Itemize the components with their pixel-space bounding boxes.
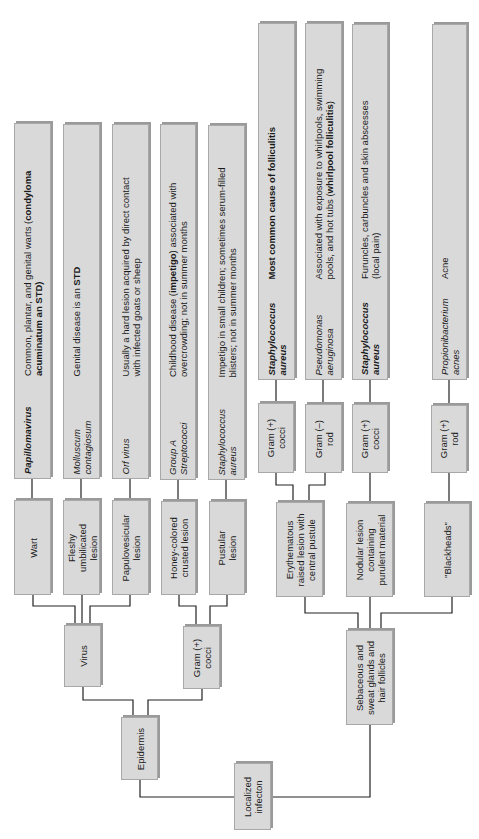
node-label: hair follicles — [375, 641, 386, 715]
node-label: cocci — [370, 419, 381, 457]
node-label: "Blackheads" — [442, 522, 453, 578]
node-label: Pustular — [216, 531, 227, 566]
organism-note-bold: impetigo — [167, 253, 178, 293]
honey-crusted-lesion-node: Honey-colored crusted lesion — [161, 501, 196, 595]
organism-note: (local pain) — [370, 101, 381, 279]
gram-positive-cocci-node: Gram (+) cocci — [183, 626, 220, 689]
node-label: Localized — [242, 776, 253, 816]
gram-negative-rod-node: Gram (–) rod — [305, 404, 342, 473]
organism-note: ) — [324, 101, 335, 104]
organism-name: aureus — [370, 279, 381, 375]
group-a-strep-node: Group A Streptococci Childhood disease (… — [160, 124, 196, 480]
organism-note-bold: Most common cause of folliculitis — [266, 126, 277, 279]
staph-aureus-folliculitis-node: Staphylococcus aureus Most common cause … — [258, 23, 295, 380]
node-label: Epidermis — [134, 727, 145, 769]
organism-name: Staphylococcus — [359, 279, 370, 375]
virus-node: Virus — [64, 625, 101, 687]
node-label: Gram (–) — [313, 420, 324, 458]
pseudomonas-node: Pseudomonas aeruginosa Associated with e… — [305, 23, 342, 380]
node-label: Sebaceous and — [353, 641, 364, 715]
organism-note: ) associated with — [167, 183, 178, 254]
node-label: purulent material — [375, 515, 386, 586]
organism-note: Usually a hard lesion acquired by direct… — [120, 177, 131, 376]
organism-name: acnes — [450, 279, 461, 375]
organism-note-bold: whirlpool folliculitis — [324, 104, 335, 193]
node-label: Erythematous — [283, 513, 294, 586]
organism-name: Staphylococcus — [266, 279, 277, 375]
node-label: lesion — [87, 523, 98, 571]
node-label: containing — [364, 515, 375, 586]
organism-name: Orf virus — [120, 376, 131, 474]
node-label: central pustule — [305, 513, 316, 586]
node-label: raised lesion with — [294, 513, 305, 586]
organism-note: Associated with exposure to whirlpools, … — [313, 68, 324, 279]
organism-note: Common, plantar, and genital warts ( — [22, 221, 33, 376]
sebaceous-glands-node: Sebaceous and sweat glands and hair foll… — [346, 630, 393, 725]
fleshy-lesion-node: Fleshy umbilicated lesion — [63, 500, 100, 595]
orf-virus-node: Orf virus Usually a hard lesion acquired… — [112, 124, 149, 479]
organism-note: Acne — [439, 257, 450, 279]
organism-note: Genital disease is an — [71, 285, 82, 376]
node-label: rod — [449, 420, 460, 458]
node-label: Fleshy — [65, 523, 76, 571]
organism-note-bold: condyloma — [22, 171, 33, 221]
organism-note: Childhood disease ( — [167, 293, 178, 377]
organism-name: aureus — [227, 377, 238, 475]
gram-positive-cocci-node: Gram (+) cocci — [352, 404, 388, 473]
organism-name: Papillomavirus — [22, 376, 33, 474]
organism-note: with infected goats or sheep — [131, 177, 142, 376]
gram-positive-rod-node: Gram (+) rod — [431, 405, 467, 473]
papulovesicular-lesion-node: Papulovesicular lesion — [112, 500, 149, 595]
organism-name: Propionibacterium — [439, 279, 450, 375]
node-label: Honey-colored — [168, 517, 179, 579]
nodular-lesion-node: Nodular lesion containing purulent mater… — [346, 503, 393, 597]
node-label: Papulovesicular — [120, 514, 131, 581]
node-label: lesion — [131, 514, 142, 581]
organism-note-bold: acuminatum an STD) — [33, 171, 44, 376]
organism-note: overcrowding; not in summer months — [178, 183, 189, 377]
organism-note: Impetigo in small children; sometimes se… — [216, 167, 227, 377]
papillomavirus-node: Papillomavirus Common, plantar, and geni… — [14, 123, 51, 479]
node-label: Gram (+) — [191, 638, 202, 676]
organism-name: aureus — [277, 279, 288, 375]
organism-note: pools, and hot tubs ( — [324, 193, 335, 279]
propionibacterium-node: Propionibacterium acnes Acne — [432, 24, 467, 380]
staph-aureus-impetigo-node: Staphylococcus aureus Impetigo in small … — [208, 125, 245, 480]
node-label: cocci — [276, 419, 287, 457]
blackheads-node: "Blackheads" — [424, 503, 470, 597]
node-label: Virus — [77, 645, 88, 666]
staph-aureus-furuncles-node: Staphylococcus aureus Furuncles, carbunc… — [352, 24, 388, 380]
node-label: sweat glands and — [364, 641, 375, 715]
organism-note: Furuncles, carbuncles and skin abscesses — [359, 101, 370, 279]
organism-name: aeruginosa — [324, 279, 335, 375]
node-label: Gram (+) — [265, 419, 276, 457]
node-label: umbilicated — [76, 523, 87, 571]
node-label: Wart — [27, 538, 38, 558]
gram-positive-cocci-node: Gram (+) cocci — [258, 403, 294, 473]
epidermis-node: Epidermis — [121, 717, 158, 780]
organism-note: blisters; not in summer months — [227, 167, 238, 377]
erythematous-lesion-node: Erythematous raised lesion with central … — [276, 502, 323, 597]
organism-name: Staphylococcus — [216, 377, 227, 475]
organism-name: Pseudomonas — [313, 279, 324, 375]
organism-name: Group A — [167, 377, 178, 475]
organism-name: Streptococci — [178, 377, 189, 475]
node-label: rod — [324, 420, 335, 458]
organism-name: contagiosum — [82, 376, 93, 474]
node-label: lesion — [227, 531, 238, 566]
node-label: Nodular lesion — [353, 515, 364, 586]
node-label: cocci — [202, 638, 213, 676]
organism-note-bold: STD — [71, 266, 82, 285]
node-label: crusted lesion — [179, 517, 190, 579]
organism-name: Molluscum — [71, 376, 82, 474]
node-label: infecton — [253, 776, 264, 816]
molluscum-node: Molluscum contagiosum Genital disease is… — [63, 124, 100, 479]
pustular-lesion-node: Pustular lesion — [209, 501, 245, 595]
node-label: Gram (+) — [438, 420, 449, 458]
node-label: Gram (+) — [359, 419, 370, 457]
wart-node: Wart — [14, 500, 51, 595]
localized-infection-node: Localized infecton — [234, 763, 271, 830]
